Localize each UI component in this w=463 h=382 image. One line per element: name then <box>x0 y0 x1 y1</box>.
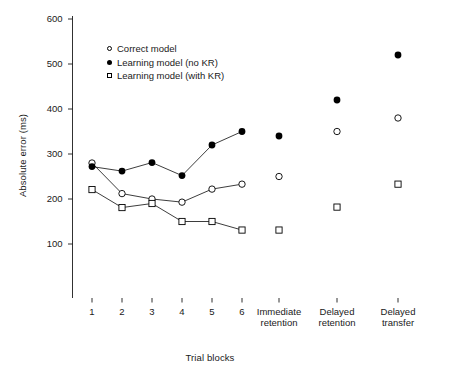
chart-figure: Absolute error (ms) Trial blocks Correct… <box>0 0 463 382</box>
y-tick-label: 600 <box>29 13 63 24</box>
y-tick-label: 400 <box>29 103 63 114</box>
y-tick-label: 500 <box>29 58 63 69</box>
y-tick-label: 100 <box>29 238 63 249</box>
y-tick-label: 200 <box>29 193 63 204</box>
x-tick-label: Delayedretention <box>302 306 372 328</box>
y-tick-label: 300 <box>29 148 63 159</box>
x-tick-label: Delayedtransfer <box>363 306 433 328</box>
